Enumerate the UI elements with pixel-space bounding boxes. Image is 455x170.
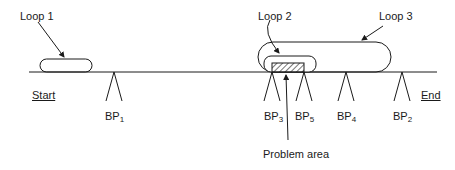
bp-4-label: BP4 bbox=[337, 110, 356, 126]
bp-2-marker bbox=[394, 72, 410, 101]
bp-1-marker bbox=[106, 72, 122, 101]
loop-3-label: Loop 3 bbox=[379, 10, 413, 22]
loop-2-arrow bbox=[267, 20, 279, 53]
loop-1-shape bbox=[40, 59, 92, 72]
bp-2-label: BP2 bbox=[393, 110, 412, 126]
bp-5-marker bbox=[296, 72, 312, 101]
problem-area-region bbox=[272, 63, 304, 72]
loop-3-arrow bbox=[362, 26, 383, 40]
loop-2-label: Loop 2 bbox=[258, 10, 292, 22]
problem-area-arrow bbox=[286, 75, 288, 140]
loop-1-label: Loop 1 bbox=[20, 10, 54, 22]
bp-5-label: BP5 bbox=[295, 110, 314, 126]
end-label: End bbox=[421, 89, 441, 101]
problem-area-label: Problem area bbox=[263, 148, 329, 160]
bp-4-marker bbox=[338, 72, 354, 101]
start-label: Start bbox=[32, 89, 55, 101]
diagram-canvas bbox=[0, 0, 455, 170]
bp-3-marker bbox=[264, 72, 280, 101]
loop-1-arrow bbox=[38, 22, 64, 57]
bp-3-label: BP3 bbox=[264, 110, 283, 126]
bp-1-label: BP1 bbox=[105, 110, 124, 126]
